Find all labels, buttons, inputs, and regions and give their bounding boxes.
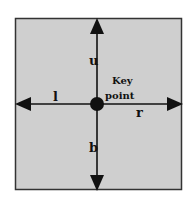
label-left: l [53,89,58,104]
keypoint-direction-diagram: u l r b Key point [0,0,191,203]
key-point-dot [90,97,104,111]
key-point-label-line1: Key [112,75,134,86]
label-bottom: b [89,140,98,155]
label-up: u [89,53,98,68]
label-right: r [136,105,143,120]
key-point-label-line2: point [105,90,135,101]
